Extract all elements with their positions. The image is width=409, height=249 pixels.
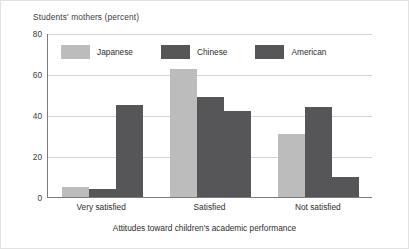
bar-chart-figure: Students' mothers (percent) 020406080 Ve… bbox=[0, 0, 409, 249]
legend-swatch-japanese bbox=[61, 45, 90, 59]
y-axis-tick-label: 20 bbox=[33, 152, 42, 162]
legend-swatch-chinese bbox=[161, 45, 190, 59]
bar-chinese-satisfied bbox=[197, 97, 224, 197]
legend-label: Japanese bbox=[97, 47, 133, 57]
y-axis-tick-label: 80 bbox=[33, 29, 42, 39]
legend-label: American bbox=[291, 47, 326, 57]
legend-item-american: American bbox=[255, 45, 326, 59]
y-axis-tick-label: 0 bbox=[37, 193, 42, 203]
bar-american-satisfied bbox=[224, 111, 251, 197]
bar-chinese-very-satisfied bbox=[89, 189, 116, 197]
bar-american-very-satisfied bbox=[116, 105, 143, 197]
x-axis-line bbox=[47, 197, 372, 198]
legend-label: Chinese bbox=[197, 47, 227, 57]
x-axis-category-label: Very satisfied bbox=[76, 202, 125, 212]
y-axis-tick-label: 60 bbox=[33, 70, 42, 80]
bar-chinese-not-satisfied bbox=[305, 107, 332, 197]
bar-american-not-satisfied bbox=[332, 177, 359, 197]
x-axis-category-label: Not satisfied bbox=[295, 202, 341, 212]
y-axis-title: Students' mothers (percent) bbox=[33, 12, 139, 22]
legend-item-chinese: Chinese bbox=[161, 45, 227, 59]
x-axis-category-label: Satisfied bbox=[194, 202, 226, 212]
chart-legend: JapaneseChineseAmerican bbox=[61, 45, 326, 59]
bar-japanese-very-satisfied bbox=[62, 187, 89, 197]
legend-swatch-american bbox=[255, 45, 284, 59]
x-axis-title: Attitudes toward children's academic per… bbox=[1, 223, 408, 233]
legend-item-japanese: Japanese bbox=[61, 45, 133, 59]
y-axis-tick-label: 40 bbox=[33, 111, 42, 121]
bar-japanese-not-satisfied bbox=[278, 134, 305, 197]
bar-japanese-satisfied bbox=[170, 69, 197, 197]
